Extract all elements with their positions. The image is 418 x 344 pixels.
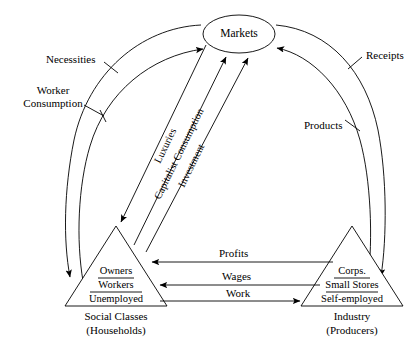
arc-receipts	[276, 25, 385, 276]
caption-social-classes-line1: Social Classes	[64, 310, 168, 323]
tier-corps: Corps.	[330, 265, 374, 277]
label-products: Products	[304, 119, 343, 132]
leader-necessities	[104, 62, 118, 73]
tier-unemployed: Unemployed	[79, 293, 153, 305]
circular-flow-diagram: Markets Necessities Worker Consumption R…	[0, 0, 418, 344]
label-worker-consumption-line2: Consumption	[6, 97, 100, 110]
leader-receipts	[348, 57, 362, 69]
tier-workers: Workers	[91, 279, 141, 291]
label-work: Work	[226, 287, 250, 300]
label-worker-consumption-line1: Worker	[12, 84, 94, 97]
caption-social-classes-line2: (Households)	[64, 324, 168, 337]
tier-owners: Owners	[91, 265, 141, 277]
tier-small-stores: Small Stores	[317, 279, 387, 291]
caption-industry-line1: Industry	[300, 310, 404, 323]
label-necessities: Necessities	[46, 53, 95, 66]
label-receipts: Receipts	[366, 49, 404, 62]
tier-self-employed: Self-employed	[313, 293, 391, 305]
caption-industry-line2: (Producers)	[300, 324, 404, 337]
markets-label: Markets	[215, 27, 263, 41]
leader-products	[345, 120, 360, 131]
label-wages: Wages	[222, 270, 251, 283]
label-profits: Profits	[219, 247, 248, 260]
